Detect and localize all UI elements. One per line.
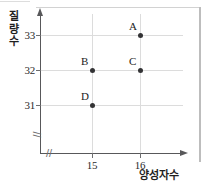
x-tick-label-15: 15 — [82, 160, 102, 171]
data-point-C — [138, 68, 143, 73]
page-edge-topleft — [0, 1, 30, 2]
y-tick-label-32: 32 — [24, 65, 35, 76]
y-axis-break-mark: // — [32, 131, 41, 137]
y-axis-title-char-3: 수 — [6, 36, 22, 49]
gridline-y-31 — [40, 105, 183, 106]
x-tick-16 — [140, 153, 141, 158]
x-axis-title: 양성자수 — [139, 170, 179, 182]
y-tick-33 — [36, 35, 41, 36]
gridline-x-15 — [92, 14, 93, 153]
gridline-y-33 — [40, 35, 183, 36]
x-axis-arrow-icon — [180, 150, 188, 156]
y-axis-title: 질 량 수 — [6, 11, 22, 49]
x-axis-break-mark: // — [46, 149, 52, 158]
scatter-plot-figure: 33 32 31 15 16 // // 질 량 수 양성자수 A B C D — [0, 0, 201, 189]
data-point-D — [90, 103, 95, 108]
data-point-B — [90, 68, 95, 73]
data-point-label-A: A — [129, 21, 137, 32]
data-point-label-D: D — [81, 91, 89, 102]
page-edge-right — [199, 7, 201, 162]
x-tick-15 — [92, 153, 93, 158]
y-axis-title-char-1: 질 — [6, 11, 22, 24]
y-tick-32 — [36, 70, 41, 71]
y-axis-arrow-icon — [37, 8, 43, 16]
data-point-label-C: C — [129, 56, 136, 67]
gridline-y-32 — [40, 70, 183, 71]
page-edge-top — [36, 7, 201, 8]
data-point-label-B: B — [81, 56, 88, 67]
y-tick-label-33: 33 — [24, 30, 35, 41]
y-tick-label-31: 31 — [24, 100, 35, 111]
data-point-A — [138, 33, 143, 38]
x-axis-line — [40, 153, 182, 154]
y-tick-31 — [36, 105, 41, 106]
